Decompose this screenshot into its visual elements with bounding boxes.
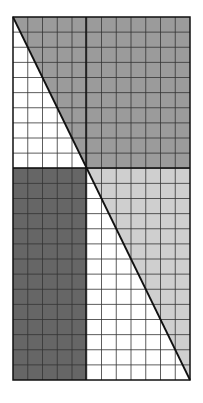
grid-diagram [0, 0, 203, 403]
diagram [0, 0, 203, 403]
